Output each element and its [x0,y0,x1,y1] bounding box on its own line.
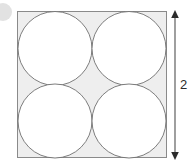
circle-top-right [92,12,166,86]
vertical-dimension-arrow [171,10,179,160]
circle-bottom-right [92,84,166,158]
circle-top-left [18,12,92,86]
corner-badge-icon [0,3,12,21]
dimension-label-vertical: 2 [180,78,187,91]
circle-bottom-left [18,84,92,158]
figure-canvas [0,0,191,167]
geometry-figure: 2 [0,0,191,167]
